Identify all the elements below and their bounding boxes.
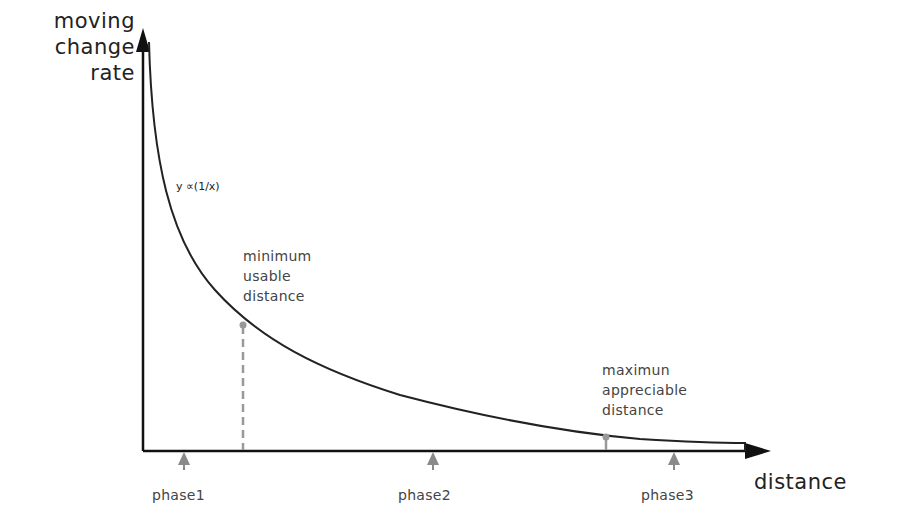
min-usable-line-3: distance — [243, 286, 312, 306]
phase3-label: phase3 — [641, 487, 694, 503]
min-usable-line-1: minimum — [243, 246, 312, 266]
phase1-label: phase1 — [152, 487, 205, 503]
y-axis-arrow-icon — [136, 28, 150, 52]
y-axis-label: moving change rate — [54, 8, 135, 86]
x-axis-arrow-icon — [745, 443, 771, 459]
phase2-arrow-icon — [427, 452, 439, 470]
x-axis-label: distance — [754, 470, 847, 494]
phase1-arrow-icon — [178, 452, 190, 470]
max-appreciable-line-1: maximun — [602, 360, 687, 380]
max-appreciable-annotation: maximun appreciable distance — [602, 360, 687, 420]
min-usable-line-2: usable — [243, 266, 312, 286]
phase3-arrow-icon — [668, 452, 680, 470]
min-usable-annotation: minimum usable distance — [243, 246, 312, 306]
max-appreciable-point — [603, 434, 610, 441]
y-label-line-2: change — [54, 34, 135, 60]
max-appreciable-line-3: distance — [602, 400, 687, 420]
y-label-line-1: moving — [54, 8, 135, 34]
max-appreciable-line-2: appreciable — [602, 380, 687, 400]
y-label-line-3: rate — [54, 60, 135, 86]
phase2-label: phase2 — [398, 487, 451, 503]
min-usable-point — [240, 322, 247, 329]
equation-label: y ∝(1/x) — [176, 180, 220, 193]
